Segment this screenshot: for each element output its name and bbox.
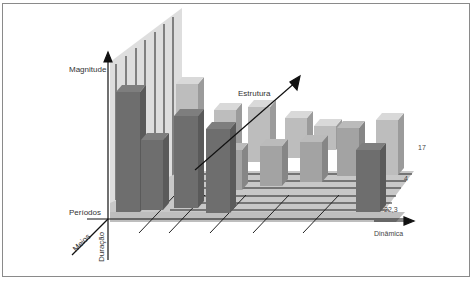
estrutura-arrowhead (290, 76, 300, 90)
dinamica-arrowhead (404, 217, 414, 225)
bar-middle (260, 139, 288, 186)
3d-bar-chart: Magnitude Estrutura Períodos Meios Duraç… (0, 0, 476, 282)
meios-label: Meios (71, 232, 92, 253)
bar-front (174, 109, 204, 208)
bar-front (141, 133, 169, 210)
estrutura-label: Estrutura (238, 89, 271, 98)
tick-label-17: 17 (418, 144, 426, 151)
tick-label-22-3: 22,3 (384, 206, 398, 213)
periodos-label: Períodos (69, 208, 101, 217)
dinamica-label: Dinâmica (374, 230, 403, 237)
bar-front (206, 122, 236, 213)
magnitude-arrowhead (104, 52, 112, 62)
bar-front (356, 143, 386, 212)
magnitude-label: Magnitude (69, 65, 107, 74)
duracao-label: Duração (97, 231, 106, 262)
tick-label-4: 4 (404, 175, 408, 182)
bar-middle (300, 135, 328, 182)
